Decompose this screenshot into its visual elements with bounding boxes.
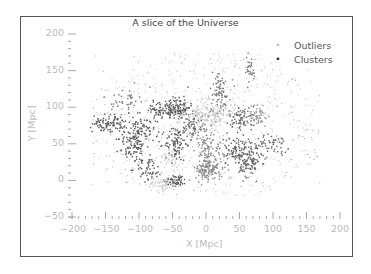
cluster-marker-icon: • (270, 54, 286, 64)
x-tick-label: −150 (94, 223, 118, 234)
legend: • Outliers • Clusters (270, 38, 333, 66)
x-tick-label: 200 (328, 223, 352, 234)
x-tick-label: −50 (161, 223, 185, 234)
legend-label-outliers: Outliers (294, 40, 331, 51)
x-tick-label: 50 (228, 223, 252, 234)
y-axis-label: Y [Mpc] (26, 106, 37, 142)
outlier-marker-icon: • (270, 40, 286, 50)
legend-label-clusters: Clusters (294, 54, 333, 65)
y-tick-label: 150 (30, 64, 64, 75)
y-tick-label: 200 (30, 27, 64, 38)
x-tick-label: −200 (60, 223, 84, 234)
x-tick-label: −100 (127, 223, 151, 234)
x-tick-label: 150 (295, 223, 319, 234)
legend-item-outliers: • Outliers (270, 38, 333, 52)
legend-item-clusters: • Clusters (270, 52, 333, 66)
x-tick-label: 0 (194, 223, 218, 234)
x-axis-label: X [Mpc] (186, 238, 222, 249)
y-tick-label: −50 (30, 210, 64, 221)
y-tick-label: 0 (30, 173, 64, 184)
x-tick-label: 100 (261, 223, 285, 234)
